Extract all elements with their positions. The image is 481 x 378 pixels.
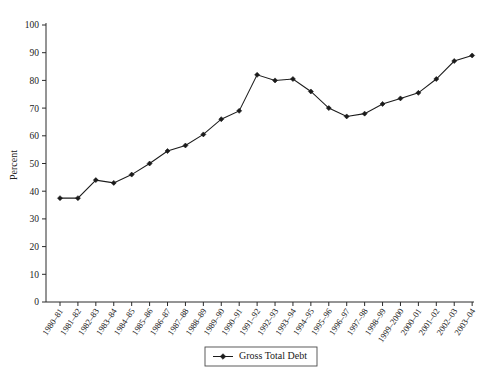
data-point[interactable]	[255, 72, 260, 77]
y-tick-label: 80	[30, 76, 40, 86]
line-chart: 1009080706050403020100 1980–811981–82198…	[0, 0, 481, 378]
y-tick-label: 0	[34, 297, 39, 307]
x-axis: 1980–811981–821982–831983–841984–851985–…	[40, 302, 478, 344]
data-series-gross-total-debt[interactable]	[58, 53, 475, 201]
data-point[interactable]	[273, 78, 278, 83]
data-point[interactable]	[344, 114, 349, 119]
y-tick-label: 60	[30, 131, 40, 141]
legend-entry-label[interactable]: Gross Total Debt	[239, 350, 307, 361]
data-point[interactable]	[470, 53, 475, 58]
y-axis-title: Percent	[8, 150, 19, 180]
y-tick-label: 10	[30, 270, 40, 280]
y-tick-label: 90	[30, 48, 40, 58]
data-point[interactable]	[362, 111, 367, 116]
data-point[interactable]	[398, 96, 403, 101]
y-tick-label: 70	[30, 104, 40, 114]
y-axis: 1009080706050403020100	[25, 20, 46, 307]
data-point[interactable]	[58, 196, 63, 201]
y-tick-label: 30	[30, 214, 40, 224]
y-tick-label: 20	[30, 242, 40, 252]
chart-container: 1009080706050403020100 1980–811981–82198…	[0, 0, 481, 378]
chart-legend[interactable]: Gross Total Debt	[205, 347, 317, 366]
data-point[interactable]	[111, 180, 116, 185]
data-point[interactable]	[129, 172, 134, 177]
y-tick-label: 50	[30, 159, 40, 169]
series-line	[60, 55, 472, 198]
y-tick-label: 40	[30, 187, 40, 197]
data-point[interactable]	[183, 143, 188, 148]
data-point[interactable]	[237, 108, 242, 113]
y-tick-label: 100	[25, 20, 40, 30]
data-point[interactable]	[380, 101, 385, 106]
